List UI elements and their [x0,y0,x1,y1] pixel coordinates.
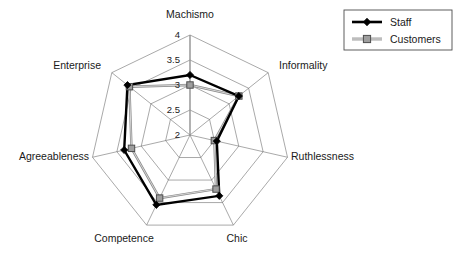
axis-label-ruthlessness: Ruthlessness [291,150,354,162]
tick-label-3.5: 3.5 [167,54,180,65]
axis-label-enterprise: Enterprise [53,59,101,71]
tick-label-3: 3 [175,79,180,90]
data-point-staff-chic [216,192,223,199]
tick-label-2: 2 [175,129,180,140]
axis-label-chic: Chic [226,232,247,244]
tick-label-2.5: 2.5 [167,104,180,115]
axis-label-competence: Competence [94,232,154,244]
series-customers-polygon [129,85,238,198]
series-customers [129,85,238,198]
grid-spoke-ruthlessness [190,135,287,157]
radar-chart-svg: 4 3.5 3 2.5 2 Machismo Informality Ruthl… [0,0,459,255]
chart-legend: Staff Customers [344,10,452,50]
legend-label-customers: Customers [390,33,441,45]
axis-label-informality: Informality [279,59,328,71]
legend-marker-customers-square-icon [363,35,370,42]
data-point-customers-agreeableness [128,145,134,151]
radar-chart-figure: 4 3.5 3 2.5 2 Machismo Informality Ruthl… [0,0,459,255]
axis-label-agreeableness: Agreeableness [19,150,89,162]
radar-axis-labels: Machismo Informality Ruthlessness Chic C… [19,8,354,244]
grid-spoke-informality [190,73,268,135]
data-point-customers-competence [156,195,162,201]
tick-label-4: 4 [175,29,180,40]
series-staff-polygon [124,75,239,205]
axis-label-machismo: Machismo [166,8,214,20]
data-point-customers-machismo [187,82,193,88]
series-customers-polygon-highlight [129,85,238,198]
legend-label-staff: Staff [390,16,411,28]
series-staff [124,75,239,205]
data-point-staff-machismo [186,71,193,78]
data-point-customers-chic [213,186,219,192]
